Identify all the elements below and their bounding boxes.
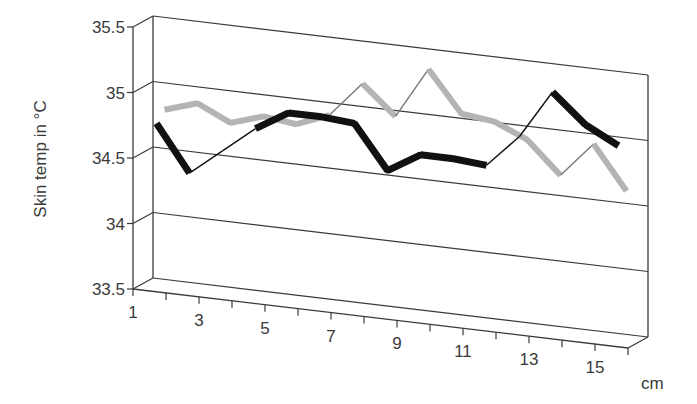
y-axis-title: Skin temp in °C: [31, 100, 50, 217]
side-gridline: [133, 147, 153, 158]
side-gridline: [133, 278, 153, 289]
line-chart-3d: 35.53534.53433.513579111315 Skin temp in…: [0, 0, 697, 404]
side-gridline: [133, 213, 153, 224]
side-gridline: [133, 16, 153, 27]
chart-walls: [133, 16, 648, 348]
y-tick-label: 33.5: [92, 280, 125, 299]
gridline: [153, 147, 648, 206]
x-tick-label: 5: [260, 319, 269, 338]
gridline: [153, 278, 648, 337]
x-tick-label: 1: [128, 303, 137, 322]
x-tick-label: 15: [586, 358, 605, 377]
floor-right-edge: [628, 337, 648, 348]
x-tick-label: 3: [194, 311, 203, 330]
x-tick-label: 13: [520, 350, 539, 369]
x-tick-label: 11: [454, 342, 472, 361]
side-gridline: [133, 82, 153, 93]
y-tick-label: 34.5: [92, 149, 125, 168]
x-tick-label: 7: [326, 327, 335, 346]
x-axis-title: cm: [641, 374, 664, 393]
x-tick-label: 9: [392, 334, 401, 353]
y-tick-label: 35: [106, 84, 125, 103]
y-tick-label: 35.5: [92, 18, 125, 37]
gridline: [153, 213, 648, 272]
axes: 35.53534.53433.513579111315: [92, 18, 628, 377]
x-axis-line: [133, 289, 628, 348]
y-tick-label: 34: [106, 215, 125, 234]
gridline: [153, 16, 648, 75]
